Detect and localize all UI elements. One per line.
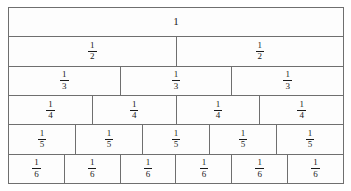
fraction-cell-halves-1: 12 <box>9 37 177 65</box>
fraction-cell-sixths-1: 16 <box>9 155 65 183</box>
fraction-cell-fifths-4: 15 <box>210 125 277 153</box>
fraction-row-whole: 1 <box>9 8 343 37</box>
fraction-cell-fourths-1: 14 <box>9 96 93 124</box>
fraction-row-halves: 1212 <box>9 37 343 66</box>
fraction-numerator: 1 <box>214 100 223 109</box>
fraction-numerator: 1 <box>172 70 181 79</box>
fraction-glyph: 15 <box>38 129 47 150</box>
fraction-cell-fourths-3: 14 <box>177 96 261 124</box>
fraction-denominator: 4 <box>297 111 306 120</box>
fraction-denominator: 5 <box>105 140 114 149</box>
fraction-glyph: 16 <box>311 158 320 179</box>
fraction-glyph: 16 <box>144 158 153 179</box>
fraction-glyph: 16 <box>32 158 41 179</box>
fraction-glyph: 13 <box>172 70 181 91</box>
fraction-glyph: 13 <box>283 70 292 91</box>
fraction-glyph: 15 <box>172 129 181 150</box>
fraction-glyph: 15 <box>105 129 114 150</box>
fraction-numerator: 1 <box>46 100 55 109</box>
fraction-cell-sixths-6: 16 <box>288 155 343 183</box>
fraction-denominator: 6 <box>144 170 153 179</box>
fraction-cell-fifths-5: 15 <box>277 125 343 153</box>
fraction-numerator: 1 <box>297 100 306 109</box>
fraction-numerator: 1 <box>60 70 69 79</box>
fraction-wall-diagram: 1121213131314141414151515151516161616161… <box>8 7 344 184</box>
fraction-cell-sixths-4: 16 <box>176 155 232 183</box>
fraction-glyph: 12 <box>256 41 265 62</box>
fraction-numerator: 1 <box>255 158 264 167</box>
fraction-denominator: 5 <box>306 140 315 149</box>
fraction-glyph: 13 <box>60 70 69 91</box>
fraction-glyph: 16 <box>200 158 209 179</box>
fraction-glyph: 14 <box>130 100 139 121</box>
fraction-cell-sixths-3: 16 <box>121 155 177 183</box>
fraction-numerator: 1 <box>283 70 292 79</box>
fraction-cell-sixths-2: 16 <box>65 155 121 183</box>
fraction-numerator: 1 <box>88 41 97 50</box>
fraction-glyph: 15 <box>239 129 248 150</box>
fraction-numerator: 1 <box>105 129 114 138</box>
fraction-numerator: 1 <box>172 129 181 138</box>
whole-label: 1 <box>173 16 179 28</box>
fraction-row-thirds: 131313 <box>9 67 343 96</box>
fraction-glyph: 16 <box>88 158 97 179</box>
fraction-numerator: 1 <box>311 158 320 167</box>
fraction-denominator: 6 <box>32 170 41 179</box>
fraction-numerator: 1 <box>306 129 315 138</box>
fraction-denominator: 6 <box>255 170 264 179</box>
fraction-cell-whole-1: 1 <box>9 8 343 36</box>
fraction-glyph: 15 <box>306 129 315 150</box>
fraction-cell-fifths-1: 15 <box>9 125 76 153</box>
fraction-glyph: 12 <box>88 41 97 62</box>
fraction-cell-fourths-4: 14 <box>260 96 343 124</box>
fraction-denominator: 5 <box>38 140 47 149</box>
fraction-denominator: 6 <box>311 170 320 179</box>
fraction-numerator: 1 <box>200 158 209 167</box>
fraction-cell-fifths-2: 15 <box>76 125 143 153</box>
fraction-row-sixths: 161616161616 <box>9 155 343 183</box>
fraction-cell-thirds-1: 13 <box>9 67 121 95</box>
fraction-cell-thirds-3: 13 <box>232 67 343 95</box>
fraction-denominator: 2 <box>88 52 97 61</box>
fraction-cell-fifths-3: 15 <box>143 125 210 153</box>
fraction-row-fourths: 14141414 <box>9 96 343 125</box>
fraction-numerator: 1 <box>88 158 97 167</box>
fraction-denominator: 4 <box>130 111 139 120</box>
fraction-denominator: 6 <box>200 170 209 179</box>
fraction-numerator: 1 <box>256 41 265 50</box>
fraction-glyph: 14 <box>46 100 55 121</box>
fraction-denominator: 3 <box>60 82 69 91</box>
fraction-numerator: 1 <box>239 129 248 138</box>
fraction-glyph: 16 <box>255 158 264 179</box>
fraction-denominator: 5 <box>172 140 181 149</box>
fraction-denominator: 3 <box>172 82 181 91</box>
fraction-denominator: 2 <box>256 52 265 61</box>
fraction-cell-sixths-5: 16 <box>232 155 288 183</box>
fraction-numerator: 1 <box>38 129 47 138</box>
fraction-denominator: 4 <box>46 111 55 120</box>
fraction-denominator: 3 <box>283 82 292 91</box>
fraction-denominator: 6 <box>88 170 97 179</box>
fraction-cell-thirds-2: 13 <box>121 67 233 95</box>
fraction-numerator: 1 <box>130 100 139 109</box>
fraction-glyph: 14 <box>297 100 306 121</box>
fraction-glyph: 14 <box>214 100 223 121</box>
fraction-numerator: 1 <box>32 158 41 167</box>
fraction-denominator: 5 <box>239 140 248 149</box>
fraction-numerator: 1 <box>144 158 153 167</box>
fraction-denominator: 4 <box>214 111 223 120</box>
fraction-cell-fourths-2: 14 <box>93 96 177 124</box>
fraction-cell-halves-2: 12 <box>177 37 344 65</box>
fraction-row-fifths: 1515151515 <box>9 125 343 154</box>
